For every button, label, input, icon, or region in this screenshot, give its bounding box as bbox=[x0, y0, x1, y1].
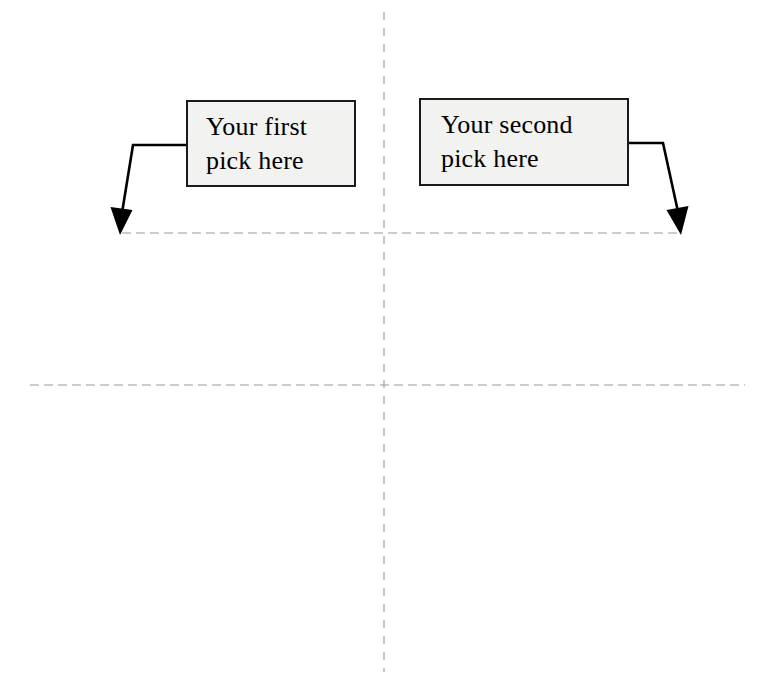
callout-label-first-pick: Your first pick here bbox=[206, 110, 346, 178]
leader-arrowhead-first bbox=[111, 207, 133, 235]
callout-box-second-pick[interactable]: Your second pick here bbox=[419, 98, 629, 186]
leader-line-first bbox=[122, 145, 187, 216]
leader-line-second bbox=[629, 143, 679, 214]
callout-box-first-pick[interactable]: Your first pick here bbox=[186, 100, 356, 187]
diagram-canvas: Your first pick here Your second pick he… bbox=[0, 0, 764, 688]
leader-arrowhead-second bbox=[667, 206, 689, 235]
callout-label-second-pick: Your second pick here bbox=[441, 108, 619, 176]
diagram-vector-layer bbox=[0, 0, 764, 688]
